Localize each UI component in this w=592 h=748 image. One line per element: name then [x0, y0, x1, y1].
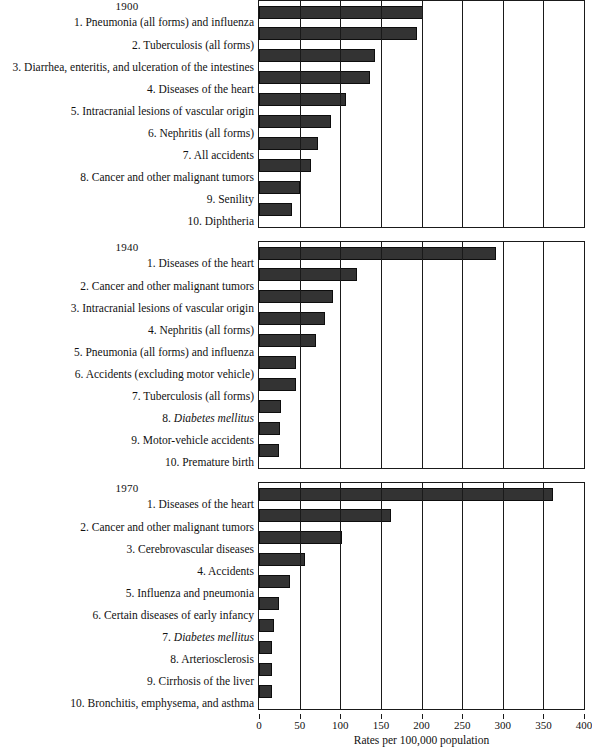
- category-label: 10. Diphtheria: [0, 210, 254, 232]
- x-axis-tick-label: 0: [256, 719, 262, 732]
- category-label: 3. Cerebrovascular diseases: [0, 538, 254, 560]
- plot-inner: [259, 242, 584, 468]
- bar: [259, 137, 318, 150]
- gridline: [340, 483, 341, 709]
- gridline: [462, 483, 463, 709]
- gridline: [503, 1, 504, 227]
- category-label: 8. Arteriosclerosis: [0, 648, 254, 670]
- x-axis-tick-label: 350: [535, 719, 552, 732]
- bar: [259, 115, 331, 128]
- panel-1940-labels: 1940 1. Diseases of the heart 2. Cancer …: [0, 241, 258, 473]
- bar: [259, 685, 272, 698]
- gridline: [462, 242, 463, 468]
- category-label: 4. Nephritis (all forms): [0, 319, 254, 341]
- panel-1940: 1940 1. Diseases of the heart 2. Cancer …: [0, 241, 592, 473]
- category-label: 2. Cancer and other malignant tumors: [0, 275, 254, 297]
- bar: [259, 509, 391, 522]
- bar: [259, 181, 300, 194]
- bar: [259, 356, 296, 369]
- category-label: 7. All accidents: [0, 144, 254, 166]
- category-label: 5. Intracranial lesions of vascular orig…: [0, 100, 254, 122]
- bar: [259, 378, 296, 391]
- category-label: 2. Tuberculosis (all forms): [0, 34, 254, 56]
- bar: [259, 400, 281, 413]
- panel-1970: 1970 1. Diseases of the heart 2. Cancer …: [0, 482, 592, 714]
- gridline: [422, 483, 423, 709]
- gridline: [503, 242, 504, 468]
- bar: [259, 247, 496, 260]
- category-label: 3. Intracranial lesions of vascular orig…: [0, 297, 254, 319]
- panel-divider: [0, 473, 592, 482]
- category-label: 9. Motor-vehicle accidents: [0, 429, 254, 451]
- bar: [259, 641, 272, 654]
- panel-1940-plot: [258, 241, 585, 469]
- gridline: [340, 242, 341, 468]
- gridline: [462, 1, 463, 227]
- panel-1940-title: 1940: [0, 241, 254, 253]
- panel-1900-labels: 1900 1. Pneumonia (all forms) and influe…: [0, 0, 258, 232]
- category-label: 6. Nephritis (all forms): [0, 122, 254, 144]
- category-label: 1. Pneumonia (all forms) and influenza: [0, 12, 254, 34]
- gridline: [422, 242, 423, 468]
- bar: [259, 27, 417, 40]
- bar: [259, 268, 357, 281]
- category-label: 6. Accidents (excluding motor vehicle): [0, 363, 254, 385]
- panel-1970-plot: [258, 482, 585, 710]
- category-label: 4. Accidents: [0, 560, 254, 582]
- bar: [259, 575, 290, 588]
- axis-spacer: [0, 714, 258, 748]
- gridline: [422, 1, 423, 227]
- gridline: [543, 242, 544, 468]
- category-label: 5. Influenza and pneumonia: [0, 582, 254, 604]
- category-label: 10. Bronchitis, emphysema, and asthma: [0, 692, 254, 714]
- gridline: [503, 483, 504, 709]
- gridline: [543, 483, 544, 709]
- x-axis-tick-label: 400: [576, 719, 592, 732]
- x-axis-tick-label: 150: [373, 719, 390, 732]
- x-axis-title: Rates per 100,000 population: [258, 733, 585, 747]
- category-label: 3. Diarrhea, enteritis, and ulceration o…: [0, 56, 254, 78]
- plot-inner: [259, 1, 584, 227]
- bar: [259, 597, 279, 610]
- category-label: 1. Diseases of the heart: [0, 253, 254, 275]
- x-axis-wrap: Rates per 100,000 population 05010015020…: [0, 714, 592, 748]
- gridline: [300, 242, 301, 468]
- category-label: 1. Diseases of the heart: [0, 494, 254, 516]
- bar: [259, 553, 305, 566]
- x-axis-tick-label: 200: [413, 719, 430, 732]
- bar: [259, 663, 272, 676]
- x-axis: Rates per 100,000 population 05010015020…: [258, 714, 585, 748]
- gridline: [381, 483, 382, 709]
- bar: [259, 159, 311, 172]
- x-axis-tick-label: 50: [294, 719, 305, 732]
- gridline: [381, 1, 382, 227]
- x-axis-tick-label: 300: [495, 719, 512, 732]
- panel-1900-title: 1900: [0, 0, 254, 12]
- category-label: 7. Diabetes mellitus: [0, 626, 254, 648]
- panel-divider: [0, 232, 592, 241]
- bar: [259, 488, 553, 501]
- category-label: 9. Senility: [0, 188, 254, 210]
- gridline: [300, 483, 301, 709]
- bar: [259, 444, 279, 457]
- gridline: [543, 1, 544, 227]
- gridline: [381, 242, 382, 468]
- category-label: 6. Certain diseases of early infancy: [0, 604, 254, 626]
- category-label: 8. Diabetes mellitus: [0, 407, 254, 429]
- bar: [259, 71, 370, 84]
- x-axis-tick-label: 100: [332, 719, 349, 732]
- category-label: 8. Cancer and other malignant tumors: [0, 166, 254, 188]
- panel-1900: 1900 1. Pneumonia (all forms) and influe…: [0, 0, 592, 232]
- category-label: 9. Cirrhosis of the liver: [0, 670, 254, 692]
- x-axis-tick-label: 250: [454, 719, 471, 732]
- bar: [259, 203, 292, 216]
- bar: [259, 334, 316, 347]
- panel-1970-title: 1970: [0, 482, 254, 494]
- plot-inner: [259, 483, 584, 709]
- gridline: [300, 1, 301, 227]
- bar: [259, 619, 274, 632]
- panel-1900-plot: [258, 0, 585, 228]
- bar: [259, 290, 333, 303]
- category-label: 2. Cancer and other malignant tumors: [0, 516, 254, 538]
- bar: [259, 422, 280, 435]
